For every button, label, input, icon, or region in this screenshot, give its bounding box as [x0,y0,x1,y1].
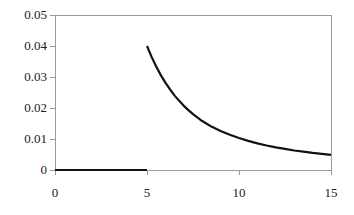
x-tick-label: 5 [122,186,172,199]
data-line-tail [147,46,331,155]
y-tick-label: 0.01 [24,132,47,145]
chart-figure: 00.010.020.030.040.05 051015 [0,0,354,215]
plot-area [0,0,354,215]
x-tick-label: 10 [214,186,264,199]
y-tick-label: 0.02 [24,101,47,114]
data-series-group [55,46,331,170]
y-tick-label: 0.04 [24,39,47,52]
y-tick-label: 0.05 [24,8,47,21]
y-tick-label: 0.03 [24,70,47,83]
tick-marks-group [50,15,331,175]
axes-group [55,15,331,170]
x-tick-label: 0 [30,186,80,199]
y-tick-label: 0 [41,163,48,176]
x-tick-label: 15 [306,186,354,199]
